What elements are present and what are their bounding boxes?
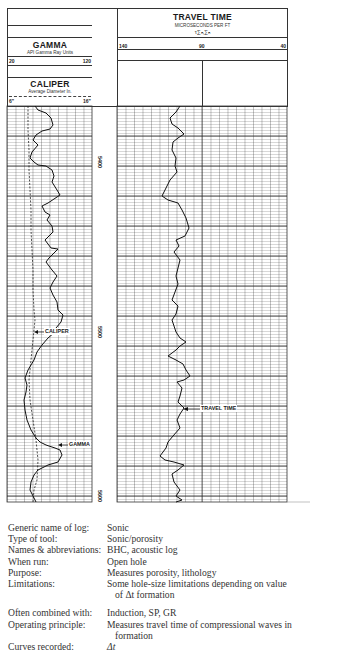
info-row-purpose: Purpose: Measures porosity, lithology <box>8 567 353 578</box>
info-label: When run: <box>8 556 107 567</box>
info-row-limitations: Limitations: Some hole-size limitations … <box>8 578 353 589</box>
info-value: BHC, acoustic log <box>107 544 353 555</box>
info-label: Purpose: <box>8 567 107 578</box>
info-row-operating-principle-cont: formation <box>8 630 353 641</box>
depth-label-5400: 5400 <box>97 156 103 168</box>
info-row-operating-principle: Operating principle: Measures travel tim… <box>8 619 353 630</box>
info-value: Sonic/porosity <box>107 533 353 544</box>
info-value-cont: of Δt formation <box>107 589 353 600</box>
gamma-curve-label: GAMMA <box>68 441 91 448</box>
info-value: Induction, SP, GR <box>107 607 353 618</box>
info-row-often-combined: Often combined with: Induction, SP, GR <box>8 607 353 618</box>
info-label: Operating principle: <box>8 619 107 630</box>
info-value: Some hole-size limitations depending on … <box>107 578 353 589</box>
info-label-spacer <box>8 589 107 600</box>
info-row-curves-recorded: Curves recorded: Δt <box>8 641 353 652</box>
info-label: Generic name of log: <box>8 522 107 533</box>
info-value: Measures travel time of compressional wa… <box>107 619 353 630</box>
log-plot <box>0 0 353 520</box>
travel-time-curve-label: TRAVEL TIME <box>200 405 237 412</box>
info-label: Names & abbreviations: <box>8 544 107 555</box>
info-value-cont: formation <box>107 630 353 641</box>
info-label-spacer <box>8 630 107 641</box>
info-value: Measures porosity, lithology <box>107 567 353 578</box>
info-label: Curves recorded: <box>8 641 107 652</box>
info-value: Sonic <box>107 522 353 533</box>
info-row-type-of-tool: Type of tool: Sonic/porosity <box>8 533 353 544</box>
info-label: Often combined with: <box>8 607 107 618</box>
depth-label-5500: 5500 <box>97 326 103 338</box>
info-value: Open hole <box>107 556 353 567</box>
depth-label-5600: 5600 <box>97 490 103 502</box>
log-info-table: Generic name of log: Sonic Type of tool:… <box>8 522 353 652</box>
info-row-generic-name: Generic name of log: Sonic <box>8 522 353 533</box>
info-gap <box>8 600 353 607</box>
info-label: Type of tool: <box>8 533 107 544</box>
info-row-limitations-cont: of Δt formation <box>8 589 353 600</box>
info-label: Limitations: <box>8 578 107 589</box>
info-row-names-abbreviations: Names & abbreviations: BHC, acoustic log <box>8 544 353 555</box>
info-row-when-run: When run: Open hole <box>8 556 353 567</box>
caliper-curve-label: CALIPER <box>44 328 70 335</box>
info-value: Δt <box>107 641 353 652</box>
